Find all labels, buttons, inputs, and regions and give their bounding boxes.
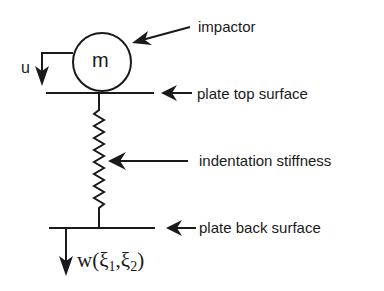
w-displacement-label: w(ξ1,ξ2) xyxy=(77,250,144,274)
close-paren: ) xyxy=(137,248,144,272)
plate-back-pointer-arrow xyxy=(166,220,196,236)
u-displacement-arrow xyxy=(35,53,73,86)
xi2-symbol: ξ xyxy=(121,248,130,272)
impactor-pointer-arrow xyxy=(132,27,190,45)
indentation-spring xyxy=(94,93,104,228)
impactor-label: impactor xyxy=(198,19,256,34)
plate-back-surface-label: plate back surface xyxy=(199,220,321,235)
xi1-symbol: ξ xyxy=(99,248,108,272)
u-symbol: u xyxy=(21,60,30,76)
plate-top-surface-label: plate top surface xyxy=(197,86,308,101)
stiffness-pointer-arrow xyxy=(108,152,188,170)
xi1-subscript: 1 xyxy=(109,259,116,274)
diagram-canvas: m u impactor plate top surface indentati… xyxy=(0,0,384,291)
indentation-stiffness-label: indentation stiffness xyxy=(199,153,331,168)
w-text: w( xyxy=(77,248,99,272)
mass-symbol: m xyxy=(92,50,109,70)
plate-top-pointer-arrow xyxy=(161,85,192,101)
schematic-drawing xyxy=(0,0,384,291)
w-displacement-arrow xyxy=(59,228,73,276)
